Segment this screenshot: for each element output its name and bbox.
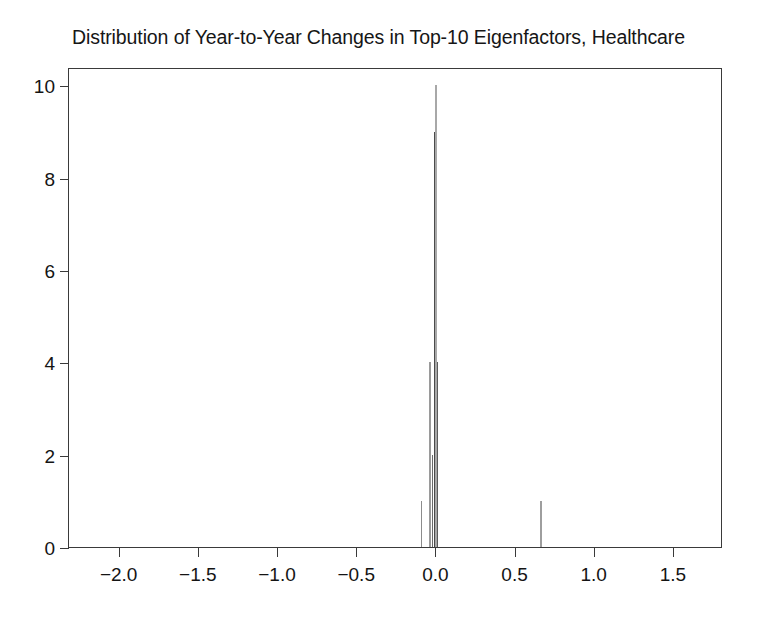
y-axis-tick	[60, 179, 69, 180]
y-axis-tick	[60, 363, 69, 364]
x-axis-tick-label: 0.5	[501, 565, 527, 584]
y-axis-tick-label: 0	[44, 539, 55, 558]
y-axis-tick	[60, 548, 69, 549]
x-axis-tick	[515, 548, 516, 557]
histogram-bar	[429, 362, 430, 547]
y-axis-tick	[60, 86, 69, 87]
y-axis-tick-label: 2	[44, 447, 55, 466]
x-axis-tick	[119, 548, 120, 557]
x-axis-tick-label: 0.0	[422, 565, 448, 584]
chart-title: Distribution of Year-to-Year Changes in …	[0, 26, 757, 49]
histogram-bars	[69, 69, 721, 547]
x-axis-tick-label: −2.0	[100, 565, 138, 584]
y-axis-tick	[60, 456, 69, 457]
x-axis-tick-label: −1.5	[179, 565, 217, 584]
histogram-bar	[540, 501, 541, 547]
histogram-bar	[421, 501, 422, 547]
y-axis-tick	[60, 271, 69, 272]
histogram-figure: Distribution of Year-to-Year Changes in …	[0, 0, 757, 620]
y-axis-tick-label: 10	[34, 77, 55, 96]
x-axis-tick	[435, 548, 436, 557]
x-axis-tick	[673, 548, 674, 557]
histogram-bar	[437, 362, 438, 547]
x-axis-tick-label: 1.5	[660, 565, 686, 584]
y-axis-tick-label: 4	[44, 354, 55, 373]
x-axis-tick-label: −1.0	[258, 565, 296, 584]
x-axis-tick-label: 1.0	[581, 565, 607, 584]
y-axis-tick-label: 8	[44, 170, 55, 189]
plot-area	[68, 68, 722, 548]
x-axis-tick	[594, 548, 595, 557]
x-axis-tick	[356, 548, 357, 557]
y-axis-tick-label: 6	[44, 262, 55, 281]
x-axis-tick	[198, 548, 199, 557]
x-axis-tick	[277, 548, 278, 557]
x-axis-tick-label: −0.5	[337, 565, 375, 584]
